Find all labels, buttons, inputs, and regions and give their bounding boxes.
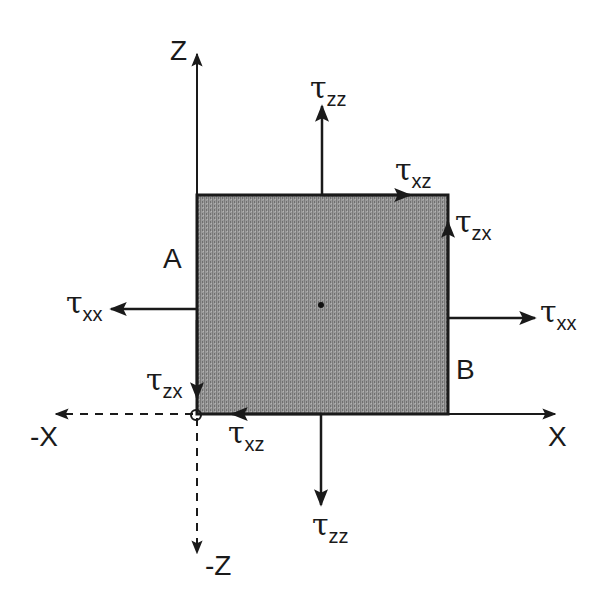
left-shear-stress-label: τzx [146, 362, 183, 402]
neg-x-axis-label: -X [30, 421, 58, 452]
face-a-label: A [163, 243, 182, 274]
left-normal-stress-label: τxx [66, 285, 103, 325]
center-point [318, 302, 324, 308]
z-axis-label: Z [170, 35, 187, 66]
top-shear-stress-label: τxz [395, 152, 432, 192]
bottom-normal-stress-label: τzz [312, 507, 349, 547]
bottom-shear-stress-label: τxz [228, 415, 265, 455]
stress-diagram: Z -Z X -X A B τzz τxz τzx τxx τxx τzx τx… [0, 0, 606, 610]
right-shear-stress-label: τzx [455, 204, 492, 244]
right-normal-stress-label: τxx [540, 294, 577, 334]
neg-z-axis-label: -Z [205, 550, 231, 581]
top-normal-stress-label: τzz [310, 70, 347, 110]
face-b-label: B [456, 354, 475, 385]
x-axis-label: X [548, 421, 567, 452]
